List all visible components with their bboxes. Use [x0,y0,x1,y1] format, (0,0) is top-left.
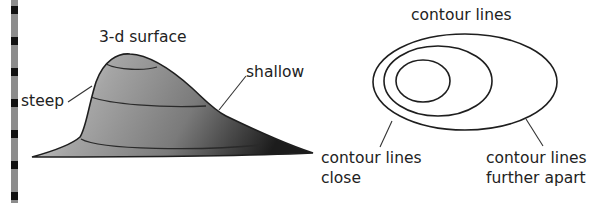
contour-map [373,34,557,130]
apart-leader-line [526,119,543,146]
close-label-line2: close [321,169,361,187]
binding-strip [11,0,18,203]
close-leader-line [380,121,392,147]
steep-leader-line [68,86,92,102]
surface-title: 3-d surface [99,28,187,46]
contour-inner [396,60,450,102]
steep-label: steep [21,92,64,110]
close-label-line1: contour lines [321,149,422,167]
contour-title: contour lines [411,6,512,24]
apart-label-line2: further apart [486,169,586,187]
shallow-label: shallow [246,63,304,81]
apart-label-line1: contour lines [486,149,587,167]
contour-outer [373,34,557,130]
diagram-canvas: 3-d surface steep shallow contour lines … [0,0,608,203]
shallow-leader-line [219,76,246,110]
contour-middle [384,46,492,116]
